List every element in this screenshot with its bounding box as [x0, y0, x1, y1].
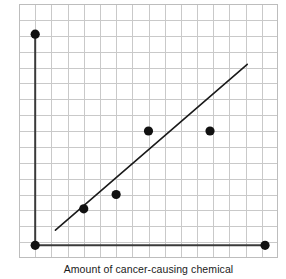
- data-point: [205, 126, 214, 135]
- scatter-plot-svg: [19, 4, 278, 258]
- data-point: [31, 241, 40, 250]
- data-point: [144, 126, 153, 135]
- data-point: [260, 241, 269, 250]
- chart-figure: Chance that rat will develop tumor Amoun…: [0, 0, 286, 279]
- plot-area: [19, 4, 278, 258]
- data-point: [79, 204, 88, 213]
- data-point: [31, 30, 40, 39]
- data-point: [112, 190, 121, 199]
- x-axis-label: Amount of cancer-causing chemical: [19, 262, 278, 276]
